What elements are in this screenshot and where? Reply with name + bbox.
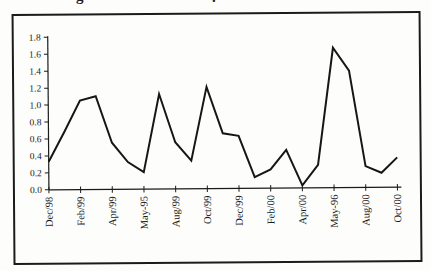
svg-text:0.4: 0.4 bbox=[30, 151, 42, 161]
svg-text:Apr/00: Apr/00 bbox=[297, 195, 308, 225]
svg-text:Apr/99: Apr/99 bbox=[107, 196, 118, 226]
svg-text:Oct/99: Oct/99 bbox=[202, 196, 213, 225]
svg-text:Oct/00: Oct/00 bbox=[392, 194, 403, 223]
line-chart: 0.00.20.40.60.81.01.21.41.61.8Dec/98Feb/… bbox=[0, 0, 431, 271]
svg-text:1.0: 1.0 bbox=[29, 100, 41, 110]
svg-text:1.4: 1.4 bbox=[29, 66, 41, 76]
svg-text:Aug/00: Aug/00 bbox=[360, 194, 371, 226]
svg-text:May-96: May-96 bbox=[329, 195, 340, 228]
svg-text:0.6: 0.6 bbox=[30, 134, 42, 144]
svg-text:0.8: 0.8 bbox=[29, 117, 41, 127]
svg-text:Dec/99: Dec/99 bbox=[234, 195, 245, 225]
svg-text:1.8: 1.8 bbox=[29, 33, 41, 43]
svg-text:1.2: 1.2 bbox=[29, 83, 41, 93]
svg-text:1.6: 1.6 bbox=[29, 50, 41, 60]
svg-text:0.2: 0.2 bbox=[30, 168, 42, 178]
chart-frame: 0.00.20.40.60.81.01.21.41.61.8Dec/98Feb/… bbox=[0, 0, 431, 271]
svg-text:Aug/99: Aug/99 bbox=[170, 196, 181, 228]
svg-text:0.0: 0.0 bbox=[30, 185, 42, 195]
scanned-figure: g . 0.00.20.40.60.81.01.21.41.61.8Dec/98… bbox=[0, 0, 431, 271]
svg-text:May-95: May-95 bbox=[139, 196, 150, 229]
svg-text:Dec/98: Dec/98 bbox=[43, 197, 54, 227]
svg-text:Feb/99: Feb/99 bbox=[75, 197, 86, 226]
svg-text:Feb/00: Feb/00 bbox=[265, 195, 276, 224]
